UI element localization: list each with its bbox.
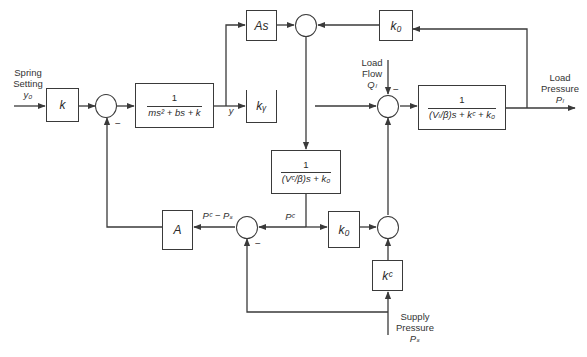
area-gain-label: A <box>173 223 181 237</box>
spool-position-label: y <box>225 106 237 117</box>
load-volume-block: 1 (Vₗ/β)s + kᶜ + k₀ <box>418 85 506 130</box>
top-orifice-block: k₀ <box>379 10 413 41</box>
area-derivative-label: As <box>254 19 268 33</box>
control-volume-block: 1 (Vᶜ/β)s + k₀ <box>271 150 341 194</box>
spring-gain-label: k <box>60 98 66 112</box>
load-pressure-label: Load Pressure Pₗ <box>535 73 585 106</box>
pc-sum-minus-sign: − <box>255 238 261 249</box>
control-volume-fraction: 1 (Vᶜ/β)s + k₀ <box>278 160 334 185</box>
plant-transfer-block: 1 ms² + bs + k <box>135 83 214 128</box>
area-derivative-block: As <box>246 10 277 41</box>
summing-junction-load <box>377 95 399 118</box>
plant-denominator: ms² + bs + k <box>144 108 204 118</box>
top-orifice-label: k₀ <box>390 19 401 33</box>
load-volume-fraction: 1 (Vₗ/β)s + kᶜ + k₀ <box>425 95 499 120</box>
summing-junction-top <box>295 14 317 37</box>
supply-pressure-label: Supply Pressure Pₛ <box>390 312 440 345</box>
load-flow-label: Load Flow Qₗ <box>352 58 392 91</box>
control-volume-denominator: (Vᶜ/β)s + k₀ <box>278 174 334 184</box>
control-pressure-label: Pᶜ <box>280 212 300 223</box>
valve-gain-label: kᵧ <box>256 99 266 113</box>
bottom-orifice-block: k₀ <box>328 211 360 248</box>
control-volume-numerator: 1 <box>303 160 308 171</box>
summing-junction-spring <box>95 94 117 118</box>
leakage-gain-label: kᶜ <box>382 269 392 283</box>
load-volume-denominator: (Vₗ/β)s + kᶜ + k₀ <box>425 110 499 120</box>
pressure-difference-label: Pᶜ − Pₛ <box>196 211 240 222</box>
spring-setting-label: Spring Setting y₀ <box>4 68 52 101</box>
leakage-gain-block: kᶜ <box>372 260 403 291</box>
load-volume-numerator: 1 <box>459 95 464 106</box>
valve-gain-block: kᵧ <box>246 90 277 123</box>
load-sum-minus-sign: − <box>393 84 399 95</box>
plant-fraction: 1 ms² + bs + k <box>144 93 204 118</box>
summing-junction-bottom <box>377 216 399 239</box>
plant-numerator: 1 <box>172 93 177 104</box>
area-gain-block: A <box>162 210 193 250</box>
bottom-orifice-label: k₀ <box>338 223 349 237</box>
sum1-minus-sign: − <box>115 118 121 129</box>
block-diagram: k 1 ms² + bs + k As kᵧ k₀ 1 (Vₗ/β)s + kᶜ… <box>0 0 587 357</box>
